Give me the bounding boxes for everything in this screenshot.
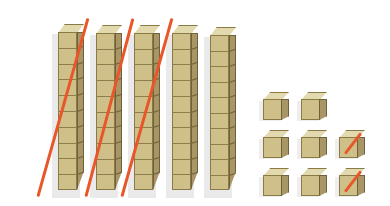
cube-side-face — [319, 175, 327, 196]
rod-segment-line — [134, 174, 153, 175]
cube-front-face — [301, 175, 320, 196]
unit-cube-r2c3 — [339, 130, 365, 158]
rod-segment-line — [210, 66, 229, 67]
cube-side-face — [319, 137, 327, 158]
cube-side-face — [281, 175, 289, 196]
cube-front-face — [263, 99, 282, 120]
rod-segment-line — [172, 80, 191, 81]
rod-segment-line — [96, 174, 115, 175]
cube-side-face — [281, 99, 289, 120]
cube-side-face — [357, 137, 365, 158]
unit-cube-r1c1 — [263, 92, 289, 120]
rod-segment-line — [172, 127, 191, 128]
rod-segment-line — [134, 80, 153, 81]
rod-segment-line — [210, 128, 229, 129]
unit-cube-r2c1 — [263, 130, 289, 158]
rod-segment-line — [210, 159, 229, 160]
rod-segment-line — [172, 143, 191, 144]
cube-front-face — [301, 137, 320, 158]
rod-segment-line — [58, 127, 77, 128]
rod-segment-line — [96, 64, 115, 65]
cube-front-face — [301, 99, 320, 120]
rod-segment-line — [96, 49, 115, 50]
rod-segment-line — [58, 143, 77, 144]
cube-side-face — [319, 99, 327, 120]
rod-segment-line — [58, 79, 77, 80]
unit-cube-r2c2 — [301, 130, 327, 158]
unit-cube-r3c3 — [339, 168, 365, 196]
rod-segment-line — [58, 158, 77, 159]
rod-segment-line — [96, 159, 115, 160]
rod-segment-line — [172, 174, 191, 175]
rod-segment-line — [134, 49, 153, 50]
rod-segment-line — [172, 96, 191, 97]
rod-segment-line — [58, 48, 77, 49]
rod-segment-line — [210, 175, 229, 176]
unit-cube-r3c2 — [301, 168, 327, 196]
unit-cube-r3c1 — [263, 168, 289, 196]
rod-segment-line — [134, 127, 153, 128]
base-ten-blocks-canvas — [0, 0, 390, 206]
rod-segment-line — [210, 144, 229, 145]
rod-segment-line — [172, 159, 191, 160]
rod-segment-line — [134, 159, 153, 160]
rod-segment-line — [58, 174, 77, 175]
cube-front-face — [263, 175, 282, 196]
cube-side-face — [357, 175, 365, 196]
rod-segment-line — [210, 82, 229, 83]
rod-segment-line — [210, 51, 229, 52]
rod-segment-line — [172, 112, 191, 113]
rod-segment-line — [210, 113, 229, 114]
rod-segment-line — [172, 49, 191, 50]
rod-segment-line — [96, 80, 115, 81]
unit-cube-r1c2 — [301, 92, 327, 120]
rod-5 — [210, 27, 236, 190]
rod-segment-line — [210, 97, 229, 98]
cube-side-face — [281, 137, 289, 158]
rod-4 — [172, 25, 198, 190]
cube-front-face — [263, 137, 282, 158]
rod-segment-line — [134, 64, 153, 65]
rod-segment-line — [172, 64, 191, 65]
